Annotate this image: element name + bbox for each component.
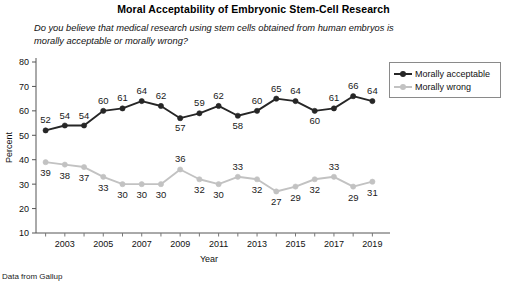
data-label: 62	[156, 90, 167, 101]
y-tick-label: 50	[19, 131, 29, 141]
data-label: 57	[175, 122, 186, 133]
x-tick-label: 2003	[55, 239, 75, 249]
data-point[interactable]	[62, 123, 67, 128]
series-line-0	[46, 96, 373, 130]
data-point[interactable]	[81, 123, 86, 128]
x-axis-title: Year	[200, 254, 218, 264]
data-point[interactable]	[158, 103, 163, 108]
data-label: 61	[329, 92, 340, 103]
data-label: 36	[175, 153, 186, 164]
data-label: 29	[348, 192, 359, 203]
data-label: 31	[367, 187, 378, 198]
data-point[interactable]	[101, 108, 106, 113]
x-tick-label: 2013	[247, 239, 267, 249]
legend-label-morally-wrong: Morally wrong	[413, 82, 471, 92]
y-tick-label: 10	[19, 228, 29, 238]
series-line-1	[46, 162, 373, 191]
data-point[interactable]	[331, 106, 336, 111]
data-point[interactable]	[216, 103, 221, 108]
data-label: 58	[233, 120, 244, 131]
data-point[interactable]	[178, 167, 183, 172]
data-label: 60	[98, 95, 109, 106]
y-axis-title: Percent	[4, 131, 14, 163]
data-point[interactable]	[351, 94, 356, 99]
chart-legend: Morally acceptable Morally wrong	[389, 62, 501, 98]
data-point[interactable]	[120, 182, 125, 187]
data-label: 33	[98, 182, 109, 193]
data-label: 64	[367, 85, 378, 96]
data-label: 33	[329, 161, 340, 172]
data-point[interactable]	[370, 179, 375, 184]
data-point[interactable]	[158, 182, 163, 187]
x-tick-label: 2019	[362, 239, 382, 249]
chart-container: Moral Acceptability of Embryonic Stem-Ce…	[0, 0, 507, 283]
data-point[interactable]	[197, 177, 202, 182]
y-tick-label: 60	[19, 106, 29, 116]
data-label: 65	[271, 83, 282, 94]
data-point[interactable]	[293, 98, 298, 103]
data-label: 27	[271, 196, 282, 207]
data-label: 30	[136, 189, 147, 200]
data-point[interactable]	[81, 164, 86, 169]
line-chart-plot: 1020304050607080Percent20032005200720092…	[0, 0, 507, 283]
data-label: 64	[136, 85, 147, 96]
legend-item-morally-wrong[interactable]: Morally wrong	[393, 80, 496, 93]
legend-marker-icon	[393, 68, 413, 79]
data-point[interactable]	[101, 174, 106, 179]
y-tick-label: 80	[19, 57, 29, 67]
x-tick-label: 2015	[285, 239, 305, 249]
data-label: 54	[60, 110, 71, 121]
y-tick-label: 40	[19, 155, 29, 165]
data-point[interactable]	[254, 177, 259, 182]
y-tick-label: 70	[19, 82, 29, 92]
data-point[interactable]	[197, 111, 202, 116]
x-tick-label: 2009	[170, 239, 190, 249]
data-point[interactable]	[43, 160, 48, 165]
x-tick-label: 2007	[132, 239, 152, 249]
y-tick-label: 20	[19, 204, 29, 214]
legend-marker-icon	[393, 81, 413, 92]
x-tick-label: 2017	[324, 239, 344, 249]
data-point[interactable]	[139, 98, 144, 103]
data-point[interactable]	[139, 182, 144, 187]
data-label: 30	[156, 189, 167, 200]
data-label: 60	[309, 115, 320, 126]
data-point[interactable]	[274, 96, 279, 101]
data-label: 39	[40, 167, 51, 178]
data-point[interactable]	[293, 184, 298, 189]
data-label: 29	[290, 192, 301, 203]
y-tick-label: 30	[19, 180, 29, 190]
data-label: 54	[79, 110, 90, 121]
data-label: 62	[213, 90, 224, 101]
data-point[interactable]	[312, 108, 317, 113]
data-label: 32	[194, 184, 205, 195]
data-point[interactable]	[351, 184, 356, 189]
data-label: 59	[194, 97, 205, 108]
data-label: 33	[233, 161, 244, 172]
data-label: 37	[79, 172, 90, 183]
data-label: 61	[117, 92, 128, 103]
legend-label-morally-acceptable: Morally acceptable	[413, 69, 490, 79]
data-label: 38	[60, 170, 71, 181]
data-point[interactable]	[216, 182, 221, 187]
source-note: Data from Gallup	[2, 272, 62, 281]
data-point[interactable]	[370, 98, 375, 103]
data-label: 32	[252, 184, 263, 195]
data-label: 30	[213, 189, 224, 200]
x-tick-label: 2011	[209, 239, 228, 249]
data-point[interactable]	[235, 174, 240, 179]
data-point[interactable]	[62, 162, 67, 167]
data-label: 52	[40, 114, 51, 125]
data-point[interactable]	[120, 106, 125, 111]
data-point[interactable]	[43, 128, 48, 133]
data-label: 30	[117, 189, 128, 200]
legend-item-morally-acceptable[interactable]: Morally acceptable	[393, 67, 496, 80]
data-point[interactable]	[254, 108, 259, 113]
data-point[interactable]	[178, 116, 183, 121]
data-point[interactable]	[235, 113, 240, 118]
data-point[interactable]	[312, 177, 317, 182]
x-tick-label: 2005	[93, 239, 113, 249]
data-point[interactable]	[274, 189, 279, 194]
data-label: 66	[348, 80, 359, 91]
data-point[interactable]	[331, 174, 336, 179]
